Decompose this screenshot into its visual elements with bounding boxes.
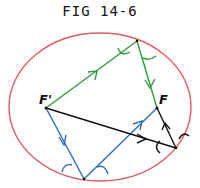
angle-arc-icon	[143, 56, 156, 59]
reflection-point-bottom	[83, 178, 86, 181]
focus-right-label: F	[159, 92, 168, 107]
green-ray-path	[46, 41, 157, 108]
arrow-icon	[133, 121, 142, 130]
angle-arc-icon	[97, 166, 108, 174]
ellipse-boundary	[9, 33, 191, 181]
arrow-icon	[137, 134, 146, 143]
focus-left-label: F'	[39, 92, 52, 107]
reflection-point-top	[136, 40, 139, 43]
blue-ray-path	[46, 108, 157, 179]
reflection-point-right	[175, 147, 178, 150]
angle-arc-icon	[62, 165, 72, 172]
ellipse-reflection-diagram: F' F	[0, 0, 200, 188]
